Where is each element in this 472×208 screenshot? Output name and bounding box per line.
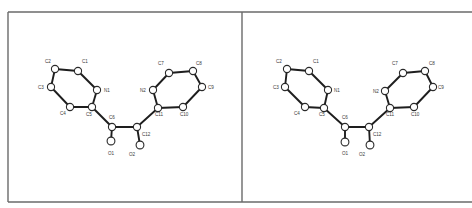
atom-o1-circle <box>341 138 349 146</box>
atom-c11-circle <box>154 104 161 111</box>
atom-label-o1: O1 <box>342 151 349 156</box>
atom-label-c9: C9 <box>438 85 444 90</box>
atom-c4-circle <box>301 103 308 110</box>
atom-c12-circle <box>365 123 372 130</box>
atom-c7-circle <box>399 69 406 76</box>
atom-n2-circle <box>149 86 156 93</box>
atom-o2-circle <box>366 141 374 149</box>
atom-label-c9: C9 <box>208 85 214 90</box>
atom-n2-circle <box>381 87 388 94</box>
atom-c8-circle <box>421 67 428 74</box>
atom-c6-circle <box>341 123 348 130</box>
atom-label-c1: C1 <box>313 59 319 64</box>
atom-label-c12: C12 <box>142 132 151 137</box>
atom-c6-circle <box>108 123 115 130</box>
atom-n1-circle <box>324 86 331 93</box>
atom-n1-circle <box>93 86 100 93</box>
atom-c4-circle <box>66 103 73 110</box>
atom-c9-circle <box>429 83 436 90</box>
atom-label-n1: N1 <box>104 88 110 93</box>
atom-c1-circle <box>74 67 81 74</box>
atom-c1-circle <box>305 67 312 74</box>
atom-c9-circle <box>198 83 205 90</box>
atom-label-c3: C3 <box>38 85 44 90</box>
atom-label-c10: C10 <box>180 112 189 117</box>
atom-c2-circle <box>283 65 290 72</box>
atom-c7-circle <box>165 69 172 76</box>
atom-c12-circle <box>133 123 140 130</box>
atom-label-c5: C5 <box>86 112 92 117</box>
atom-label-c6: C6 <box>342 115 348 120</box>
atom-label-n1: N1 <box>334 88 340 93</box>
atom-label-c8: C8 <box>429 61 435 66</box>
atom-label-c1: C1 <box>82 59 88 64</box>
atom-o1-circle <box>107 137 115 145</box>
atom-label-c6: C6 <box>109 115 115 120</box>
atom-label-c2: C2 <box>276 59 282 64</box>
atom-label-c2: C2 <box>45 59 51 64</box>
atom-label-c8: C8 <box>196 61 202 66</box>
atom-label-c7: C7 <box>392 61 398 66</box>
atom-c2-circle <box>51 65 58 72</box>
atom-label-n2: N2 <box>140 88 146 93</box>
atom-o2-circle <box>136 141 144 149</box>
atom-label-c11: C11 <box>155 112 164 117</box>
atom-c10-circle <box>179 103 186 110</box>
atom-c11-circle <box>386 104 393 111</box>
atom-label-c12: C12 <box>373 132 382 137</box>
atom-c8-circle <box>189 67 196 74</box>
stereo-molecule-figure: C1C2C3N1C4C5C6C12O1O2N2C7C8C9C10C11 C1C2… <box>0 0 472 208</box>
atom-c5-circle <box>88 103 95 110</box>
atom-label-o2: O2 <box>129 152 136 157</box>
atom-label-c4: C4 <box>294 111 300 116</box>
atom-label-c11: C11 <box>386 112 395 117</box>
atom-label-c10: C10 <box>411 112 420 117</box>
atom-c10-circle <box>410 103 417 110</box>
atom-c3-circle <box>281 83 288 90</box>
atom-label-o1: O1 <box>108 151 115 156</box>
atom-label-c5: C5 <box>319 112 325 117</box>
atom-label-o2: O2 <box>359 152 366 157</box>
atom-c5-circle <box>320 104 327 111</box>
atom-c3-circle <box>47 83 54 90</box>
atom-label-c4: C4 <box>60 111 66 116</box>
atom-label-c7: C7 <box>158 61 164 66</box>
atom-label-c3: C3 <box>273 85 279 90</box>
atom-label-n2: N2 <box>373 89 379 94</box>
